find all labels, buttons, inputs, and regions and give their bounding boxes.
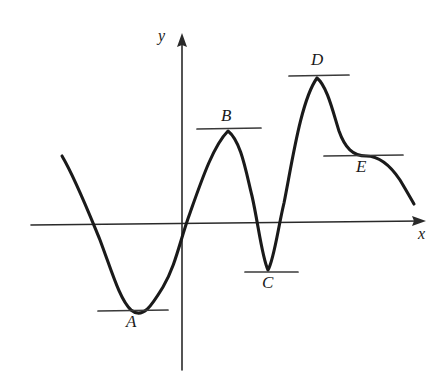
y-axis-arrowhead [177, 33, 187, 47]
point-label-d: D [311, 51, 323, 68]
point-label-e: E [356, 158, 366, 175]
tangent-line-a [98, 310, 168, 311]
function-graph-svg [0, 0, 446, 386]
point-label-c: C [262, 274, 273, 291]
x-axis-line [31, 221, 421, 225]
point-label-a: A [126, 313, 136, 330]
figure-container: y x A B C D E [0, 0, 446, 386]
tangent-line-e [324, 155, 403, 156]
y-axis-label: y [158, 28, 165, 44]
tangent-line-d [289, 75, 349, 76]
tangent-line-b [197, 128, 261, 129]
x-axis-label: x [418, 226, 425, 242]
point-label-b: B [221, 107, 231, 124]
function-curve [62, 78, 414, 313]
